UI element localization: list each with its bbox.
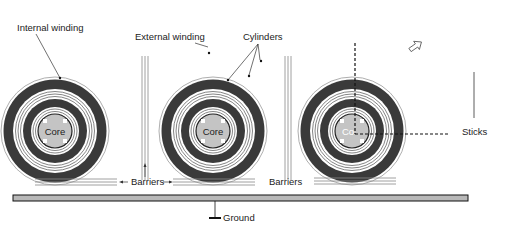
- leader-dot-icon: [59, 77, 61, 79]
- sticks-label: Sticks: [462, 126, 488, 137]
- core-label-1: Core: [45, 126, 66, 137]
- core-label-2: Core: [203, 126, 224, 137]
- leader-dot-icon: [208, 52, 210, 54]
- cylinders-label: Cylinders: [243, 31, 283, 42]
- arrowhead-icon: [144, 163, 147, 167]
- cylinders-leaders: [227, 44, 262, 81]
- core-label-3: Co: [342, 126, 354, 137]
- barriers-label-left: Barriers: [131, 176, 165, 187]
- hollow-arrow-icon: [407, 38, 424, 54]
- internal-winding-label: Internal winding: [17, 22, 84, 33]
- ground-label: Ground: [223, 212, 255, 223]
- barriers-label-right: Barriers: [269, 176, 303, 187]
- internal-winding-leader: [36, 34, 60, 78]
- diagram-canvas: Core Core Co: [0, 0, 524, 235]
- arrowhead-icon: [169, 181, 173, 184]
- external-winding-leader: [195, 43, 208, 47]
- vertical-barrier-2: [285, 56, 291, 180]
- ground-plane: [13, 195, 468, 201]
- external-winding-label: External winding: [135, 31, 205, 42]
- arrowhead-icon: [119, 181, 123, 184]
- vertical-barrier-1: [142, 56, 148, 180]
